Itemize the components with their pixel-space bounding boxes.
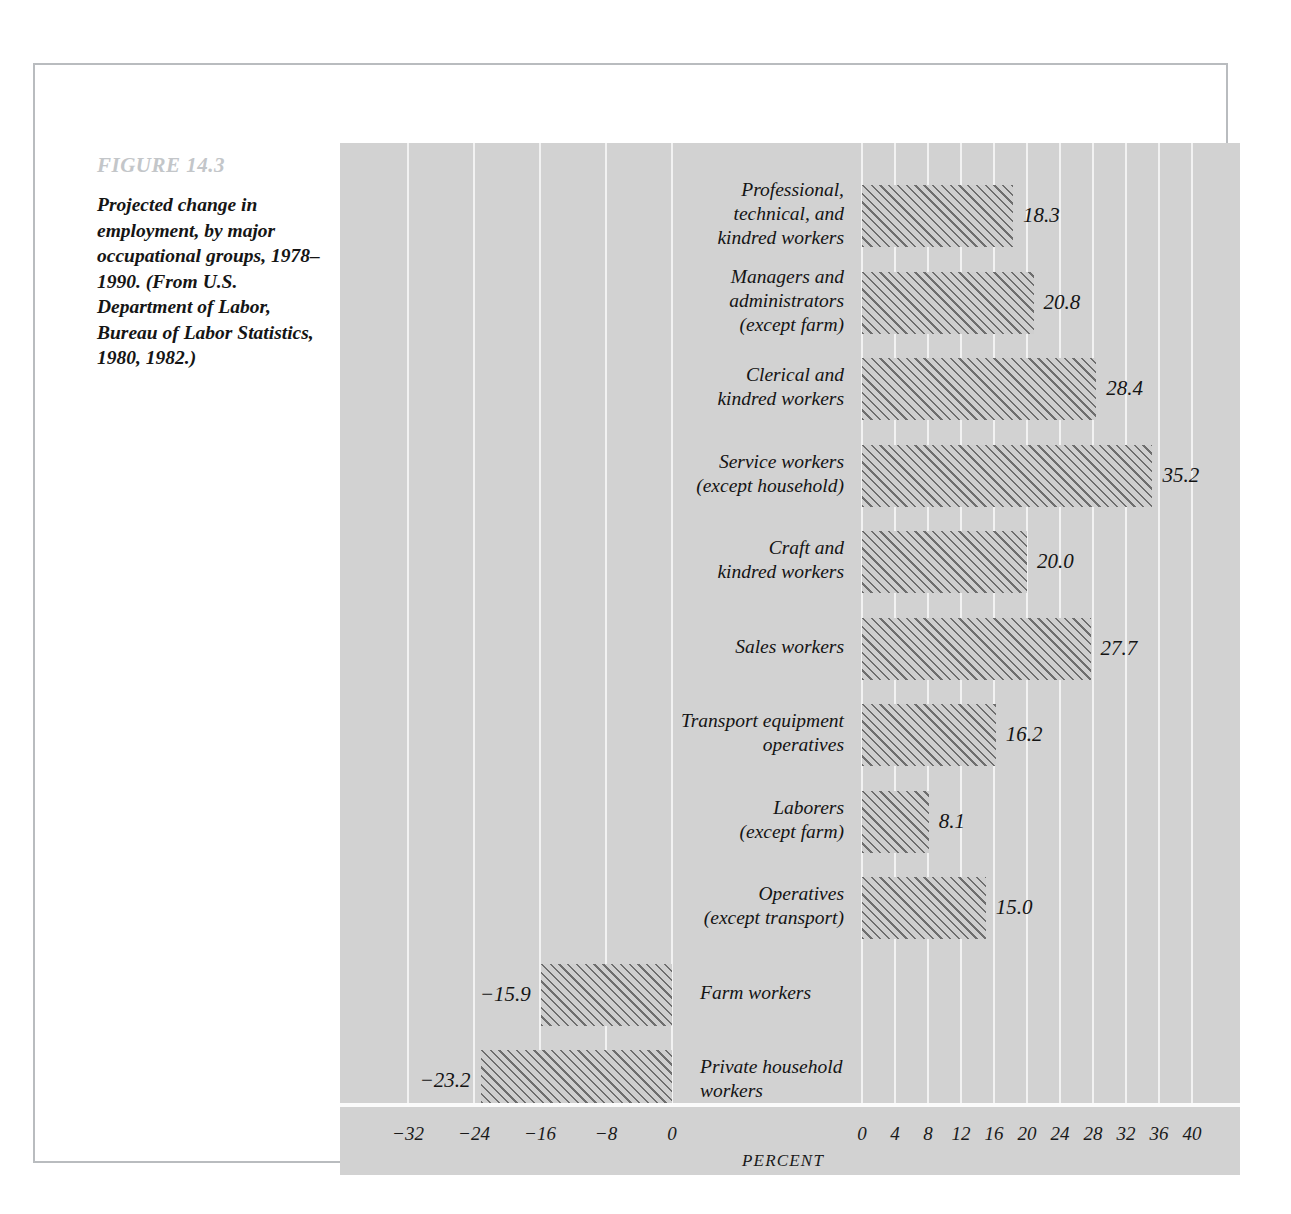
bar [862,358,1096,420]
category-label: Craft and kindred workers [717,536,844,584]
bar-value-label: 15.0 [996,895,1033,920]
bar-value-label: 27.7 [1101,636,1138,661]
category-label: Transport equipment operatives [681,709,844,757]
bar-value-label: 16.2 [1006,722,1043,747]
figure-number-label: FIGURE 14.3 [97,153,329,178]
bar-value-label: 20.8 [1044,290,1081,315]
axis-tick-right: 8 [923,1123,933,1145]
axis-tick-right: 20 [1018,1123,1037,1145]
bar [862,877,986,939]
bar-value-label: 28.4 [1106,376,1143,401]
gridline [473,143,475,1103]
axis-tick-right: 36 [1150,1123,1169,1145]
axis-tick-left: −16 [524,1123,556,1145]
chart-panel: 18.320.828.435.220.027.716.28.115.0−15.9… [340,143,1240,1175]
bar [862,445,1152,507]
bar-value-label: −23.2 [420,1068,471,1093]
bar [862,618,1091,680]
axis-tick-right: 28 [1084,1123,1103,1145]
gridline [1158,143,1160,1103]
gridline [671,143,673,1103]
figure-page-frame: FIGURE 14.3 Projected change in employme… [33,63,1228,1163]
gridline [407,143,409,1103]
category-label: Private household workers [700,1055,842,1103]
axis-tick-left: −32 [392,1123,424,1145]
bar [862,791,929,853]
bar [862,531,1027,593]
figure-caption-text: Projected change in employment, by major… [97,192,329,371]
axis-tick-right: 16 [985,1123,1004,1145]
gridline [1191,143,1193,1103]
x-axis-title: PERCENT [742,1151,824,1171]
gridline [1125,143,1127,1103]
x-axis-strip: −32−24−16−800481216202428323640 PERCENT [340,1103,1240,1175]
bar [862,185,1013,247]
category-label: Laborers (except farm) [740,796,845,844]
axis-tick-right: 24 [1051,1123,1070,1145]
axis-tick-left: 0 [667,1123,677,1145]
gridline [605,143,607,1103]
category-label: Service workers (except household) [696,450,844,498]
category-label: Clerical and kindred workers [717,363,844,411]
category-label: Operatives (except transport) [704,882,844,930]
figure-caption-block: FIGURE 14.3 Projected change in employme… [97,153,329,371]
axis-tick-right: 12 [952,1123,971,1145]
axis-tick-left: −8 [595,1123,617,1145]
category-label: Managers and administrators (except farm… [729,265,844,337]
axis-tick-right: 0 [857,1123,867,1145]
axis-tick-left: −24 [458,1123,490,1145]
bar [862,704,996,766]
plot-surface: 18.320.828.435.220.027.716.28.115.0−15.9… [340,143,1240,1103]
category-label: Professional, technical, and kindred wor… [717,178,844,250]
bar [541,964,672,1026]
bar-value-label: 35.2 [1162,463,1199,488]
gridline [1092,143,1094,1103]
bar-value-label: −15.9 [480,982,531,1007]
bar-value-label: 20.0 [1037,549,1074,574]
bar-value-label: 18.3 [1023,203,1060,228]
category-label: Sales workers [735,635,844,659]
bar [862,272,1034,334]
bar-value-label: 8.1 [939,809,965,834]
axis-tick-right: 4 [890,1123,900,1145]
gridline [539,143,541,1103]
axis-tick-right: 32 [1117,1123,1136,1145]
axis-tick-right: 40 [1183,1123,1202,1145]
category-label: Farm workers [700,981,811,1005]
